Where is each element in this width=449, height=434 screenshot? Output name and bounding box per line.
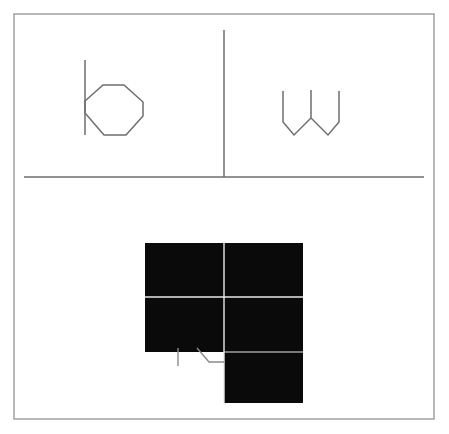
figure-root: Scanned line-drawing figure with two upp…: [0, 0, 449, 434]
figure-canvas: [0, 0, 449, 434]
black-block-right-column: [224, 243, 303, 403]
